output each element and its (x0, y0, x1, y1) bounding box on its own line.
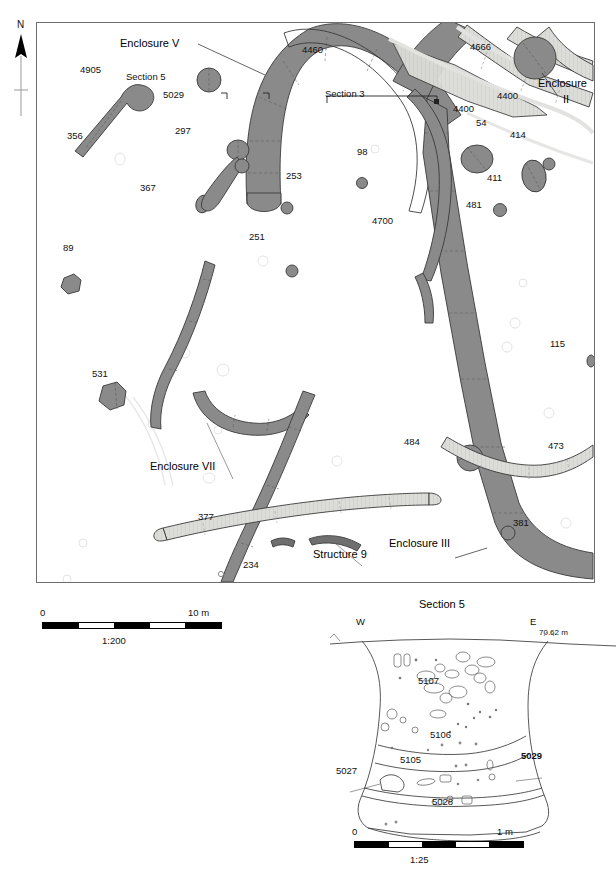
feature-label: 414 (510, 130, 526, 140)
feature-label: II (563, 94, 569, 105)
map-scale-zero: 0 (40, 608, 45, 618)
feature-label: 115 (550, 339, 565, 349)
feature-label: 367 (140, 183, 156, 193)
feature-label: 234 (243, 560, 259, 570)
feature-label: 4700 (372, 216, 393, 226)
section-east-label: E (530, 617, 536, 627)
section-5-panel: Section 5 W E 70.62 m (330, 596, 616, 884)
feature-label: Enclosure III (389, 538, 450, 549)
scale-seg (422, 842, 456, 847)
feature-label: 481 (466, 200, 482, 210)
scale-seg (114, 623, 150, 628)
section-scale-bar (354, 841, 524, 848)
feature-label: Enclosure V (120, 38, 179, 49)
feature-label: Enclosure VII (150, 461, 215, 472)
feature-label: 356 (67, 131, 83, 141)
scale-seg (389, 842, 423, 847)
feature-label: 5106 (430, 730, 451, 740)
feature-label: 253 (286, 171, 302, 181)
feature-label: 5027 (336, 766, 357, 776)
map-scale-bar (42, 622, 222, 629)
feature-label: 4400 (453, 104, 474, 114)
map-scale-bar-group: 0 10 m 1:200 (40, 608, 230, 654)
feature-label: Structure 9 (313, 549, 367, 560)
feature-label: 4666 (470, 42, 491, 52)
section-scale-ratio: 1:25 (410, 855, 429, 865)
feature-label: 4400 (497, 91, 518, 101)
feature-label: 377 (198, 512, 214, 522)
scale-seg (43, 623, 79, 628)
north-arrow: N (8, 20, 36, 120)
feature-label: 411 (487, 173, 502, 183)
feature-label: Section 5 (126, 72, 166, 82)
site-plan-map (36, 22, 595, 583)
feature-label: 4460 (302, 45, 323, 55)
map-scale-ratio: 1:200 (102, 636, 126, 646)
feature-label: Enclosure (538, 78, 587, 89)
north-label: N (17, 20, 24, 30)
section-scale-bar-group: 0 1 m 1:25 (352, 827, 542, 873)
feature-label: 297 (175, 126, 191, 136)
feature-label: 531 (92, 369, 108, 379)
scale-seg (79, 623, 115, 628)
feature-label: 98 (357, 147, 368, 157)
feature-label: 251 (249, 232, 265, 242)
site-plan-drawing (37, 23, 594, 582)
feature-label: 5107 (418, 676, 439, 686)
feature-label: 381 (513, 518, 529, 528)
feature-label: 89 (63, 243, 74, 253)
feature-label: 5105 (400, 755, 421, 765)
feature-label: 5029 (521, 751, 542, 761)
feature-label: 54 (476, 118, 487, 128)
north-arrow-glyph (8, 20, 36, 120)
feature-label: 5029 (163, 90, 184, 100)
scale-seg (456, 842, 490, 847)
feature-label: 473 (548, 441, 564, 451)
scale-seg (150, 623, 186, 628)
section-scale-zero: 0 (352, 827, 357, 837)
scale-seg (355, 842, 389, 847)
section-west-label: W (356, 617, 365, 627)
section-5-title: Section 5 (419, 599, 465, 610)
map-scale-max: 10 m (188, 608, 209, 618)
scale-seg (185, 623, 221, 628)
feature-label: 5028 (432, 797, 453, 807)
scale-seg (489, 842, 523, 847)
feature-label: 4905 (80, 65, 101, 75)
feature-label: 484 (404, 437, 420, 447)
section-scale-max: 1 m (497, 827, 513, 837)
feature-label: Section 3 (325, 89, 365, 99)
